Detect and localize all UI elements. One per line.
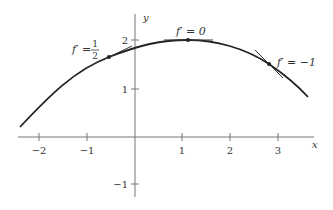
y-axis — [131, 14, 139, 197]
tangent-point — [186, 38, 190, 42]
function-curve — [20, 40, 308, 127]
y-tick-label: 2 — [122, 35, 128, 46]
tangent-point — [107, 55, 111, 59]
x-tick-label: −1 — [80, 145, 95, 156]
y-axis-label: y — [142, 12, 149, 23]
label-slope-minus-one: f′ = −1 — [276, 56, 316, 69]
tangent-lines — [86, 40, 283, 78]
x-axis-label: x — [312, 139, 318, 150]
x-tick-label: 1 — [179, 145, 185, 156]
y-tick-label: −1 — [113, 179, 128, 190]
x-tick-label: 3 — [275, 145, 281, 156]
fraction-denominator: 2 — [92, 51, 98, 61]
x-tick-label: −2 — [32, 145, 47, 156]
tangent-point — [267, 62, 271, 66]
x-axis — [18, 133, 314, 141]
y-tick-label: 1 — [122, 84, 128, 95]
svg-text:f′ =: f′ = — [71, 43, 91, 56]
label-slope-zero: f′ = 0 — [175, 25, 206, 38]
label-slope-half: f′ = 1 2 — [71, 39, 99, 61]
fraction-numerator: 1 — [92, 39, 98, 49]
x-tick-label: 2 — [227, 145, 233, 156]
derivative-diagram: −2 −1 1 2 3 2 1 −1 x y f′ = 1 2 f′ = 0 f… — [0, 0, 333, 210]
